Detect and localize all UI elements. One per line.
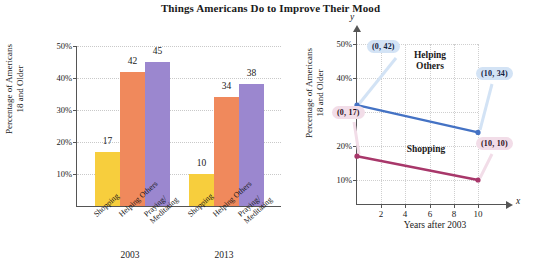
bar-y-tick-50	[73, 46, 77, 47]
callout-leader-helping-start	[359, 58, 396, 104]
bar-value-2013-helping-others: 34	[207, 81, 247, 91]
figure-title: Things Americans Do to Improve Their Moo…	[0, 2, 541, 14]
bar-y-tick-10	[73, 174, 77, 175]
bar-y-tick-label-50: 50%	[32, 41, 72, 51]
callout-helping-point-0: (0, 42)	[367, 40, 400, 53]
bar-y-axis-title-line1: Percentage of Americans	[4, 14, 15, 164]
bar-value-2013-shopping: 10	[182, 158, 222, 168]
bar-value-2003-helping-others: 42	[113, 56, 153, 66]
series-label-helping-others: Helping Others	[400, 50, 460, 72]
series-label-helping-line1: Helping	[400, 50, 460, 61]
bar-group-label-2003: 2003	[90, 250, 170, 260]
bar-y-axis-title-line2: 18 and Older	[15, 14, 26, 164]
data-point-helping-10-34[interactable]	[475, 130, 480, 135]
series-label-shopping: Shopping	[396, 144, 456, 155]
y-axis-letter: y	[350, 12, 354, 22]
callout-shopping-point-0: (0, 17)	[332, 106, 365, 119]
bar-y-tick-40	[73, 78, 77, 79]
bar-value-2003-praying-meditating: 45	[138, 46, 178, 56]
line-chart: Percentage of Americans 18 and Older y x…	[296, 22, 541, 267]
callout-helping-point-10: (10, 34)	[476, 67, 513, 80]
bar-y-tick-label-10: 10%	[32, 169, 72, 179]
bar-y-tick-label-30: 30%	[32, 105, 72, 115]
bar-y-tick-30	[73, 110, 77, 111]
bar-gridline-40	[77, 78, 281, 79]
callout-leader-shopping-end	[480, 154, 492, 178]
data-point-shopping-0-17[interactable]	[354, 154, 359, 159]
bar-value-2013-praying-meditating: 38	[232, 68, 272, 78]
series-label-helping-line2: Others	[400, 61, 460, 72]
bar-chart-y-axis-title: Percentage of Americans 18 and Older	[4, 14, 26, 164]
line-series-helping-others[interactable]	[357, 105, 478, 132]
bar-gridline-50	[77, 46, 281, 47]
line-series-shopping[interactable]	[357, 156, 478, 180]
bar-y-tick-20	[73, 142, 77, 143]
data-point-shopping-10-10[interactable]	[475, 177, 480, 182]
callout-shopping-point-10: (10, 10)	[476, 137, 513, 150]
callout-leader-helping-end	[480, 84, 492, 130]
bar-y-tick-label-40: 40%	[32, 73, 72, 83]
bar-group-label-2013: 2013	[184, 250, 264, 260]
bar-y-tick-label-20: 20%	[32, 137, 72, 147]
callout-leader-shopping-start	[354, 122, 359, 154]
bar-chart: Percentage of Americans 18 and Older 50%…	[0, 22, 300, 267]
figure-container: Things Americans Do to Improve Their Moo…	[0, 0, 541, 267]
bar-value-2003-shopping: 17	[88, 136, 128, 146]
